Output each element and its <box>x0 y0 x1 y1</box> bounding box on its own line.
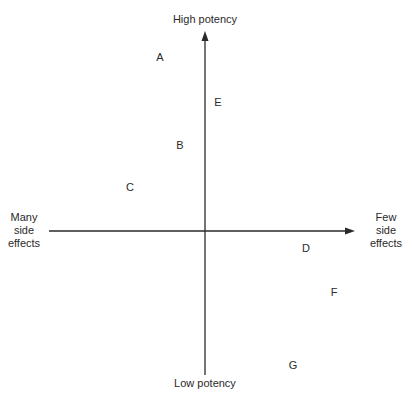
arrow-right-icon <box>345 228 355 235</box>
axis-label-high-potency: High potency <box>150 13 260 26</box>
axis-label-many-side-effects: Many side effects <box>4 211 44 250</box>
point-g: G <box>289 359 298 371</box>
axis-label-few-side-effects: Few side effects <box>364 211 408 250</box>
arrow-up-icon <box>202 31 209 41</box>
point-a: A <box>156 51 163 63</box>
axis-label-low-potency: Low potency <box>150 377 260 390</box>
point-b: B <box>176 139 183 151</box>
point-e: E <box>214 96 221 108</box>
point-f: F <box>331 286 338 298</box>
point-d: D <box>302 242 310 254</box>
potency-side-effects-diagram: High potency Low potency Many side effec… <box>0 0 412 400</box>
point-c: C <box>126 181 134 193</box>
axes-svg <box>0 0 412 400</box>
